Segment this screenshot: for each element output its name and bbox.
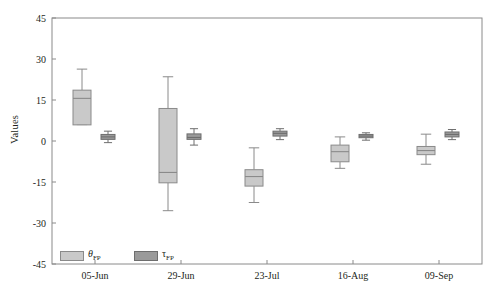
legend-swatch-tau-fp bbox=[134, 251, 158, 261]
boxplot-figure: Values 4530150-15-30-45 05-Jun29-Jun23-J… bbox=[0, 0, 491, 296]
plot-frame bbox=[52, 18, 482, 264]
box-tau-09-Sep bbox=[445, 130, 459, 140]
y-axis-tick-label: 0 bbox=[16, 136, 46, 147]
box-rect bbox=[159, 108, 177, 182]
box-rect bbox=[73, 90, 91, 125]
box-theta-05-Jun bbox=[73, 69, 91, 125]
box-theta-09-Sep bbox=[417, 134, 435, 164]
y-axis-tick-label: 30 bbox=[16, 54, 46, 65]
x-axis-tick-label: 09-Sep bbox=[425, 270, 453, 281]
legend-label-subscript: FP bbox=[93, 254, 101, 262]
y-axis-tick-label: -30 bbox=[16, 218, 46, 229]
box-rect bbox=[187, 134, 201, 139]
y-axis-tick-label: 15 bbox=[16, 95, 46, 106]
box-theta-16-Aug bbox=[331, 137, 349, 168]
legend-swatch-theta-fp bbox=[60, 251, 84, 261]
y-axis-tick-label: -15 bbox=[16, 177, 46, 188]
legend-label-subscript: FP bbox=[166, 254, 174, 262]
box-tau-05-Jun bbox=[101, 131, 115, 142]
box-rect bbox=[245, 170, 263, 186]
box-tau-23-Jul bbox=[273, 129, 287, 140]
y-axis-tick-label: 45 bbox=[16, 13, 46, 24]
x-axis-tick-label: 29-Jun bbox=[167, 270, 194, 281]
box-tau-29-Jun bbox=[187, 129, 201, 145]
legend-label-tau-fp: τFP bbox=[162, 248, 174, 262]
x-axis-tick-label: 16-Aug bbox=[338, 270, 369, 281]
box-theta-29-Jun bbox=[159, 77, 177, 211]
x-axis-tick-label: 05-Jun bbox=[81, 270, 108, 281]
box-tau-16-Aug bbox=[359, 133, 373, 140]
y-axis-tick-labels: 4530150-15-30-45 bbox=[14, 0, 46, 296]
legend-label-theta-fp: θFP bbox=[88, 248, 101, 262]
x-axis-tick-label: 23-Jul bbox=[255, 270, 280, 281]
y-axis-tick-label: -45 bbox=[16, 259, 46, 270]
box-theta-23-Jul bbox=[245, 148, 263, 203]
box-rect bbox=[331, 145, 349, 162]
